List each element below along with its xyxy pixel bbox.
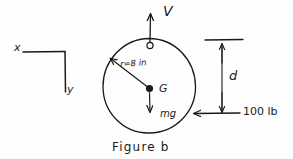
dimension-d (205, 40, 243, 113)
velocity-label: V (163, 4, 173, 18)
figure-b-diagram: V x y r=8 in G mg d 100 lb Figure b (0, 0, 293, 159)
velocity-vector (150, 14, 151, 42)
y-axis-label: y (67, 84, 74, 95)
figure-caption: Figure b (112, 141, 170, 153)
diagram-canvas (0, 0, 293, 159)
applied-force-label: 100 lb (243, 106, 278, 117)
weight-label: mg (160, 109, 176, 119)
applied-force-arrow (194, 113, 240, 114)
x-axis-label: x (14, 42, 21, 53)
radius-label: r=8 in (120, 58, 147, 68)
top-contact-point-icon (147, 42, 153, 48)
weight-vector (150, 93, 151, 113)
distance-d-label: d (229, 69, 237, 82)
coordinate-axes (23, 52, 66, 93)
center-of-mass-label: G (159, 83, 168, 94)
